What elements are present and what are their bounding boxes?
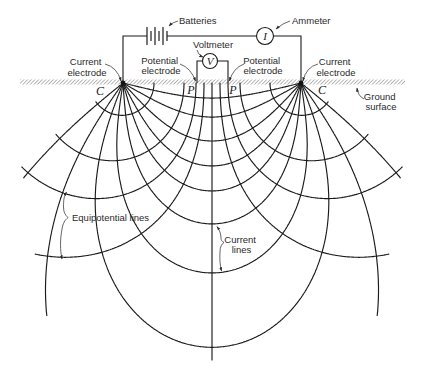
label-line: surface <box>365 101 396 112</box>
potential-electrode-right-label: Potential electrode <box>243 55 283 77</box>
potential-circuit: V <box>197 54 228 84</box>
resistivity-survey-diagram: I V Batteries Ammeter Voltmeter Current … <box>0 0 424 373</box>
ammeter-leader <box>276 21 290 29</box>
batteries-label: Batteries <box>179 15 217 26</box>
label-line: Potential <box>141 55 178 66</box>
ground-surface-label: Ground surface <box>364 91 398 112</box>
potential-electrode-right-leader <box>230 64 245 81</box>
electrode-p-right-label: P <box>228 83 237 97</box>
potential-electrode-left-leader <box>180 64 196 81</box>
equipotential-lines-label: Equipotential lines <box>72 212 149 223</box>
current-electrode-right-label: Current electrode <box>316 56 355 78</box>
label-line: electrode <box>316 67 355 78</box>
electrode-p-left-label: P <box>186 83 195 97</box>
current-line <box>301 83 379 316</box>
current-electrode-left-leader <box>105 64 121 81</box>
current-electrode-left-label: Current electrode <box>67 56 106 78</box>
voltmeter-leader <box>197 50 203 57</box>
label-line: Potential <box>243 55 280 66</box>
current-lines-brace <box>217 227 224 272</box>
current-line <box>46 83 124 316</box>
label-line: Current <box>319 56 351 67</box>
batteries-leader <box>169 21 178 26</box>
label-line: lines <box>232 244 252 255</box>
equipotential-lines-brace <box>61 192 69 259</box>
electrode-c-right-label: C <box>318 83 327 97</box>
label-line: electrode <box>67 67 106 78</box>
diagram-canvas: I V Batteries Ammeter Voltmeter Current … <box>0 0 424 373</box>
battery-icon <box>147 27 167 45</box>
current-line <box>24 83 123 178</box>
equipotential-line <box>240 83 368 161</box>
voltmeter-label: Voltmeter <box>193 39 233 50</box>
label-line: Current <box>70 56 102 67</box>
label-line: electrode <box>243 65 282 76</box>
ammeter-label: Ammeter <box>292 15 331 26</box>
current-lines-label: Current lines <box>224 234 258 255</box>
equipotential-line <box>56 83 184 161</box>
equipotential-line <box>22 83 196 199</box>
label-line: electrode <box>141 65 180 76</box>
electrode-c-left-label: C <box>96 84 105 98</box>
potential-electrode-left-label: Potential electrode <box>141 55 181 77</box>
